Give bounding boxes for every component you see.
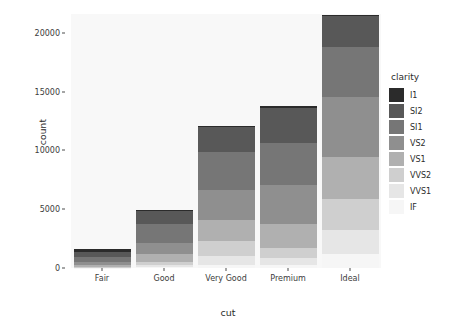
x-axis: FairGoodVery GoodPremiumIdeal [71, 268, 381, 308]
x-axis-tick-mark [164, 268, 165, 271]
legend-swatch [389, 88, 404, 102]
y-axis-tick-label: 10000 [35, 146, 60, 155]
legend-label: VVS2 [410, 171, 431, 180]
legend-label: IF [410, 203, 417, 212]
legend-item-si2[interactable]: SI2 [389, 103, 459, 119]
y-axis-tick-mark [62, 91, 65, 92]
legend-label: SI2 [410, 107, 423, 116]
legend-swatch [389, 168, 404, 182]
bar-segment[interactable] [198, 241, 255, 256]
bar-segment[interactable] [260, 143, 317, 185]
legend-swatch [389, 120, 404, 134]
bar-segment[interactable] [198, 152, 255, 190]
bar-segment[interactable] [136, 224, 193, 242]
legend-item-vvs1[interactable]: VVS1 [389, 183, 459, 199]
legend-item-vs1[interactable]: VS1 [389, 151, 459, 167]
legend-item-si1[interactable]: SI1 [389, 119, 459, 135]
legend-swatch [389, 184, 404, 198]
bar-segment[interactable] [260, 224, 317, 247]
bar-segment[interactable] [260, 185, 317, 224]
bar-segment[interactable] [136, 211, 193, 224]
bar-segment[interactable] [260, 248, 317, 258]
x-axis-tick-label: Ideal [340, 274, 359, 283]
y-axis-tick-label: 20000 [35, 28, 60, 37]
legend: clarity I1SI2SI1VS2VS1VVS2VVS1IF [389, 72, 459, 215]
y-axis-tick-label: 5000 [40, 205, 60, 214]
bar-fair[interactable] [74, 249, 131, 268]
legend-swatch [389, 104, 404, 118]
x-axis-title: cut [78, 307, 378, 318]
x-axis-tick-mark [226, 268, 227, 271]
bar-segment[interactable] [322, 47, 379, 97]
y-axis: 05000100001500020000 [0, 0, 68, 326]
bar-segment[interactable] [322, 16, 379, 47]
y-axis-tick-mark [62, 268, 65, 269]
bar-segment[interactable] [322, 97, 379, 157]
x-axis-tick-mark [102, 268, 103, 271]
legend-label: VS2 [410, 139, 426, 148]
legend-item-vs2[interactable]: VS2 [389, 135, 459, 151]
bar-segment[interactable] [198, 220, 255, 241]
legend-swatch [389, 136, 404, 150]
bar-segment[interactable] [198, 190, 255, 220]
legend-label: VS1 [410, 155, 426, 164]
y-axis-tick-mark [62, 209, 65, 210]
bar-segment[interactable] [322, 254, 379, 268]
bar-segment[interactable] [260, 258, 317, 265]
y-axis-tick-label: 0 [55, 264, 60, 273]
y-axis-tick-mark [62, 150, 65, 151]
bar-segment[interactable] [198, 256, 255, 265]
y-axis-tick-mark [62, 32, 65, 33]
bar-segment[interactable] [136, 254, 193, 262]
legend-label: I1 [410, 91, 417, 100]
bar-premium[interactable] [260, 106, 317, 268]
y-axis-tick-label: 15000 [35, 87, 60, 96]
x-axis-tick-label: Premium [270, 274, 306, 283]
legend-swatch [389, 152, 404, 166]
x-axis-tick-label: Fair [95, 274, 109, 283]
bar-segment[interactable] [198, 127, 255, 152]
bar-segment[interactable] [260, 108, 317, 143]
legend-label: SI1 [410, 123, 423, 132]
bar-segment[interactable] [322, 157, 379, 199]
x-axis-tick-label: Very Good [205, 274, 246, 283]
bar-segment[interactable] [322, 230, 379, 254]
x-axis-tick-mark [350, 268, 351, 271]
legend-items: I1SI2SI1VS2VS1VVS2VVS1IF [389, 87, 459, 215]
legend-item-i1[interactable]: I1 [389, 87, 459, 103]
legend-item-if[interactable]: IF [389, 199, 459, 215]
bar-segment[interactable] [136, 243, 193, 255]
x-axis-tick-label: Good [153, 274, 174, 283]
bar-ideal[interactable] [322, 15, 379, 268]
legend-item-vvs2[interactable]: VVS2 [389, 167, 459, 183]
bar-good[interactable] [136, 210, 193, 268]
chart-container: count 05000100001500020000 cut FairGoodV… [0, 0, 462, 326]
bar-segment[interactable] [322, 199, 379, 230]
legend-swatch [389, 200, 404, 214]
plot-panel [71, 14, 381, 268]
bar-very-good[interactable] [198, 126, 255, 268]
x-axis-tick-mark [288, 268, 289, 271]
legend-title: clarity [389, 72, 459, 82]
legend-label: VVS1 [410, 187, 431, 196]
